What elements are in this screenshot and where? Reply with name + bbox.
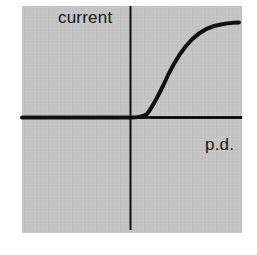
y-axis-label: current (58, 9, 112, 26)
x-axis-label: p.d. (205, 136, 234, 153)
iv-characteristic-plot (0, 0, 257, 255)
